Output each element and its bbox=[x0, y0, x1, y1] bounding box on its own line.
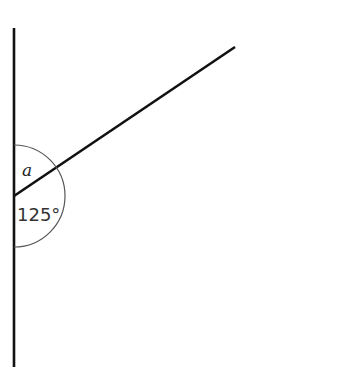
angle-label-a: a bbox=[22, 160, 32, 180]
angle-diagram: a 125° bbox=[0, 0, 342, 386]
ray-line bbox=[14, 47, 235, 196]
angle-label-125: 125° bbox=[17, 204, 60, 225]
